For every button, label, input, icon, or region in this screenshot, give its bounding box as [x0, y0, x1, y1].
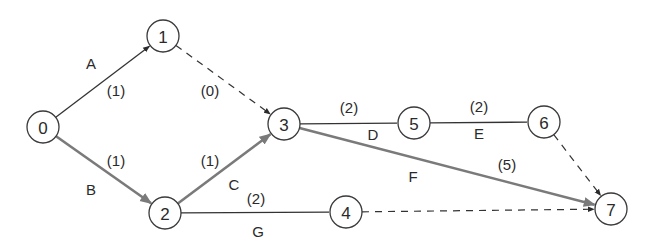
edge-1-3-dummy — [176, 45, 270, 114]
activity-label: E — [474, 125, 484, 142]
network-diagram: A(1)B(1)(0)C(1)G(2)D(2)E(2)F(5) 01234567 — [0, 0, 649, 247]
node-7: 7 — [595, 193, 627, 225]
node-2: 2 — [149, 197, 181, 229]
node-6: 6 — [528, 106, 560, 138]
node-label: 2 — [160, 205, 169, 224]
duration-label: (5) — [498, 156, 516, 173]
edge-0-1 — [56, 46, 150, 117]
edge-0-2 — [56, 136, 151, 203]
node-label: 5 — [409, 115, 418, 134]
activity-label: F — [408, 168, 417, 185]
edge-2-4 — [181, 212, 329, 213]
edge-3-7 — [299, 128, 594, 205]
node-0: 0 — [27, 111, 59, 143]
edge-4-7-dummy — [362, 209, 594, 212]
node-label: 0 — [38, 119, 47, 138]
node-label: 3 — [279, 116, 288, 135]
node-4: 4 — [330, 196, 362, 228]
duration-label: (1) — [107, 152, 125, 169]
duration-label: (2) — [247, 190, 265, 207]
node-5: 5 — [398, 107, 430, 139]
duration-label: (2) — [470, 98, 488, 115]
activity-label: C — [229, 176, 240, 193]
activity-label: B — [86, 181, 96, 198]
duration-label: (1) — [201, 152, 219, 169]
diagram-canvas: A(1)B(1)(0)C(1)G(2)D(2)E(2)F(5) 01234567 — [0, 0, 649, 247]
node-3: 3 — [268, 108, 300, 140]
edges-layer — [56, 45, 601, 213]
duration-label: (0) — [201, 82, 219, 99]
node-label: 1 — [158, 28, 167, 47]
activity-label: D — [368, 126, 379, 143]
edge-5-6 — [430, 122, 527, 123]
node-label: 4 — [341, 204, 350, 223]
edge-3-5 — [300, 123, 397, 124]
activity-label: A — [86, 55, 96, 72]
node-label: 7 — [606, 201, 615, 220]
node-label: 6 — [539, 114, 548, 133]
duration-label: (2) — [340, 99, 358, 116]
nodes-layer: 01234567 — [27, 20, 627, 229]
node-1: 1 — [147, 20, 179, 52]
duration-label: (1) — [107, 82, 125, 99]
activity-label: G — [252, 223, 264, 240]
edge-6-7-dummy — [554, 135, 601, 196]
